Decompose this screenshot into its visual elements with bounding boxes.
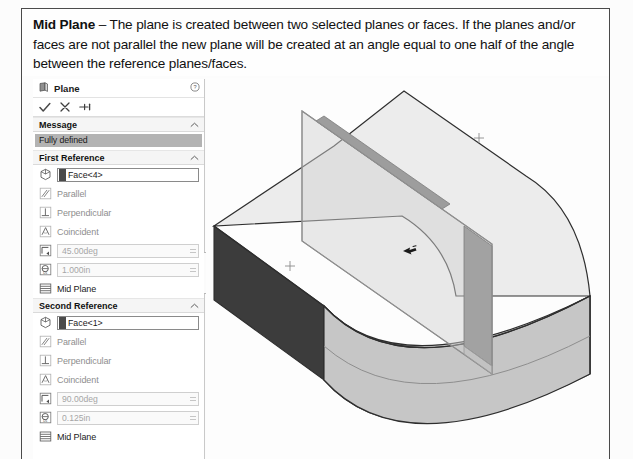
second-reference-perpendicular-label: Perpendicular (57, 356, 111, 366)
first-reference-mid-plane-row[interactable]: Mid Plane (33, 279, 204, 298)
second-reference-distance-field[interactable]: 0.125in (57, 411, 199, 425)
second-reference-perpendicular-row[interactable]: Perpendicular (33, 351, 204, 370)
first-reference-angle-value: 45.00deg (58, 246, 189, 256)
first-reference-distance-field[interactable]: 1.000in (57, 263, 199, 277)
selection-color-swatch (59, 169, 66, 181)
first-reference-coincident-label: Coincident (57, 227, 99, 237)
property-manager-panel: Plane ? (33, 79, 205, 459)
property-manager-action-bar (33, 98, 204, 117)
second-reference-coincident-label: Coincident (57, 375, 99, 385)
caption-body: – The plane is created between two selec… (33, 17, 575, 71)
first-reference-coincident-row[interactable]: Coincident (33, 222, 204, 241)
face-selection-icon (37, 315, 53, 330)
mid-plane-icon (37, 429, 53, 444)
first-reference-parallel-label: Parallel (57, 189, 86, 199)
section-header-second-reference[interactable]: Second Reference (33, 298, 204, 313)
parallel-icon (37, 186, 53, 201)
coincident-icon (37, 224, 53, 239)
first-reference-angle-field[interactable]: 45.00deg (57, 244, 199, 258)
caption-right-rail (609, 76, 610, 459)
second-reference-angle-value: 90.00deg (58, 394, 189, 404)
second-reference-mid-plane-label: Mid Plane (57, 432, 96, 442)
second-reference-parallel-row[interactable]: Parallel (33, 332, 204, 351)
second-reference-angle-field[interactable]: 90.00deg (57, 392, 199, 406)
3d-model-viewport[interactable] (206, 78, 608, 459)
plane-icon (38, 82, 49, 95)
model-svg (206, 78, 608, 459)
svg-text:D1: D1 (43, 419, 47, 423)
first-reference-angle-row: 45.00deg (33, 241, 204, 260)
first-reference-field[interactable]: Face<4> (57, 168, 199, 182)
mid-plane-front-intersection (464, 226, 492, 366)
second-reference-distance-row: D1 0.125in (33, 408, 204, 427)
second-reference-distance-value: 0.125in (58, 413, 189, 423)
section-header-first-reference[interactable]: First Reference (33, 150, 204, 165)
second-reference-angle-stepper[interactable] (189, 392, 198, 405)
parallel-icon (37, 334, 53, 349)
first-reference-value: Face<4> (68, 170, 103, 180)
page-root: Mid Plane – The plane is created between… (0, 0, 633, 459)
chevron-up-icon[interactable] (190, 153, 199, 163)
distance-icon: D1 (37, 410, 53, 425)
first-reference-distance-value: 1.000in (58, 265, 189, 275)
first-reference-perpendicular-row[interactable]: Perpendicular (33, 203, 204, 222)
selection-color-swatch (59, 317, 66, 329)
first-reference-selection-row: Face<4> (33, 165, 204, 184)
help-icon[interactable]: ? (190, 82, 200, 94)
section-header-first-reference-label: First Reference (39, 153, 105, 163)
selection-arrow-cursor (402, 244, 418, 257)
section-header-second-reference-label: Second Reference (39, 301, 118, 311)
face-selection-icon (37, 167, 53, 182)
svg-text:?: ? (193, 84, 196, 90)
second-reference-coincident-row[interactable]: Coincident (33, 370, 204, 389)
second-reference-value: Face<1> (68, 318, 103, 328)
mid-plane-icon (37, 281, 53, 296)
ok-button[interactable] (39, 102, 51, 113)
second-reference-angle-row: 90.00deg (33, 389, 204, 408)
property-manager-title-row: Plane ? (33, 79, 204, 98)
status-message: Fully defined (35, 134, 202, 147)
caption-term: Mid Plane (33, 17, 95, 32)
section-header-message-label: Message (39, 120, 77, 130)
first-reference-distance-row: D1 1.000in (33, 260, 204, 279)
perpendicular-icon (37, 353, 53, 368)
distance-icon: D1 (37, 262, 53, 277)
cancel-button[interactable] (60, 102, 70, 112)
caption-text: Mid Plane – The plane is created between… (33, 15, 600, 74)
first-reference-mid-plane-label: Mid Plane (57, 284, 96, 294)
svg-text:D1: D1 (43, 271, 47, 275)
property-manager-title: Plane (54, 83, 80, 94)
first-reference-perpendicular-label: Perpendicular (57, 208, 111, 218)
section-header-message[interactable]: Message (33, 117, 204, 132)
detailed-preview-button[interactable] (79, 102, 91, 112)
first-reference-angle-stepper[interactable] (189, 244, 198, 257)
second-reference-selection-row: Face<1> (33, 313, 204, 332)
angle-icon (37, 243, 53, 258)
second-reference-field[interactable]: Face<1> (57, 316, 199, 330)
model-left-dark-face (214, 226, 324, 380)
perpendicular-icon (37, 205, 53, 220)
caption-box: Mid Plane – The plane is created between… (21, 8, 610, 76)
chevron-up-icon[interactable] (190, 301, 199, 311)
caption-left-rail (21, 76, 22, 459)
coincident-icon (37, 372, 53, 387)
second-reference-mid-plane-row[interactable]: Mid Plane (33, 427, 204, 446)
second-reference-distance-stepper[interactable] (189, 411, 198, 424)
second-reference-parallel-label: Parallel (57, 337, 86, 347)
first-reference-distance-stepper[interactable] (189, 263, 198, 276)
angle-icon (37, 391, 53, 406)
chevron-up-icon[interactable] (190, 120, 199, 130)
first-reference-parallel-row[interactable]: Parallel (33, 184, 204, 203)
